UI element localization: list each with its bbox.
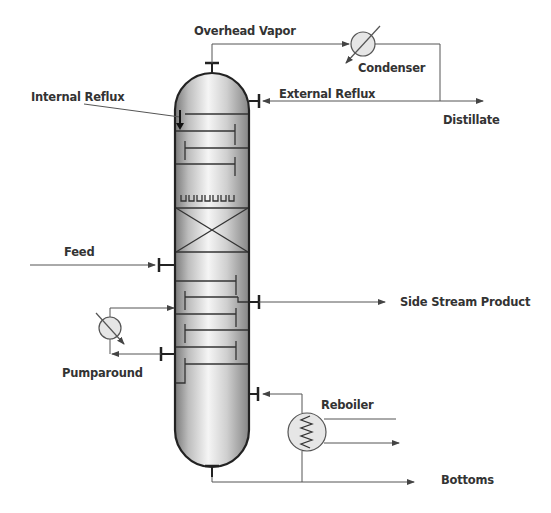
internal-reflux-indicator (84, 104, 184, 130)
feed-label: Feed (64, 245, 94, 259)
internal-reflux-label: Internal Reflux (31, 90, 125, 104)
bottoms-line (212, 451, 414, 482)
external-reflux-label: External Reflux (279, 87, 375, 101)
distillate-label: Distillate (443, 113, 500, 127)
side-stream-line (249, 295, 385, 309)
pumparound-label: Pumparound (62, 366, 143, 380)
pumparound-cooler-icon (96, 313, 124, 344)
reboiler-icon (288, 413, 399, 451)
external-reflux-nozzle (249, 94, 259, 108)
reboiler-return-line (249, 387, 302, 413)
bottoms-label: Bottoms (441, 473, 494, 487)
pumparound-loop (110, 308, 175, 361)
condenser-icon (346, 26, 380, 63)
feed-line (30, 258, 175, 272)
overhead-vapor-label: Overhead Vapor (194, 24, 296, 38)
overhead-vapor-line (212, 44, 349, 63)
side-stream-product-label: Side Stream Product (400, 295, 530, 309)
condenser-label: Condenser (358, 61, 425, 75)
reboiler-label: Reboiler (321, 398, 374, 412)
distillation-column (175, 63, 249, 477)
